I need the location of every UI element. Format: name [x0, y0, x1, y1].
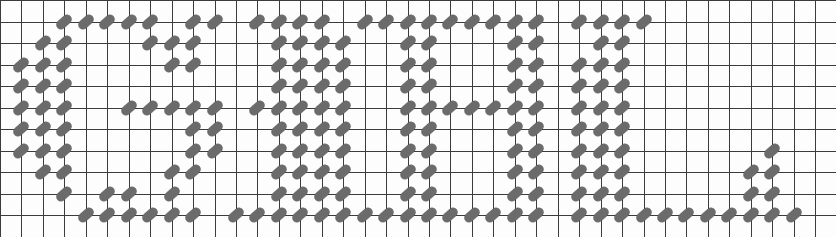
dash-mark: [312, 120, 331, 138]
dash-mark: [355, 12, 374, 30]
dash-mark: [591, 163, 610, 181]
dash-mark: [613, 163, 632, 181]
dash-mark: [184, 12, 203, 30]
dash-mark: [398, 120, 417, 138]
dash-mark: [613, 206, 632, 224]
dash-mark: [463, 206, 482, 224]
dash-mark: [420, 55, 439, 73]
dash-mark: [12, 77, 31, 95]
dash-mark: [741, 163, 760, 181]
dash-mark: [420, 206, 439, 224]
dash-mark: [334, 77, 353, 95]
dash-mark: [291, 141, 310, 159]
dash-mark: [484, 98, 503, 116]
dash-mark: [141, 12, 160, 30]
dash-mark: [270, 98, 289, 116]
dash-mark: [505, 98, 524, 116]
dash-mark: [398, 184, 417, 202]
dash-mark: [291, 120, 310, 138]
dash-mark: [763, 163, 782, 181]
dash-mark: [162, 98, 181, 116]
dash-marks-layer: [0, 0, 836, 237]
dash-mark: [12, 55, 31, 73]
dash-mark: [312, 34, 331, 52]
dash-mark: [12, 120, 31, 138]
dash-mark: [34, 55, 53, 73]
dash-mark: [763, 141, 782, 159]
dash-mark: [334, 163, 353, 181]
dash-mark: [119, 206, 138, 224]
dash-mark: [34, 163, 53, 181]
dash-mark: [398, 12, 417, 30]
dash-mark: [398, 163, 417, 181]
dash-mark: [291, 55, 310, 73]
dash-mark: [398, 55, 417, 73]
dash-mark: [570, 55, 589, 73]
dash-mark: [270, 77, 289, 95]
dash-mark: [570, 184, 589, 202]
dash-mark: [184, 34, 203, 52]
dash-mark: [505, 55, 524, 73]
dash-mark: [55, 141, 74, 159]
dash-mark: [505, 77, 524, 95]
dash-mark: [398, 141, 417, 159]
dash-mark: [613, 120, 632, 138]
dash-mark: [505, 120, 524, 138]
dash-mark: [613, 55, 632, 73]
dash-mark: [34, 98, 53, 116]
dash-mark: [570, 98, 589, 116]
dash-mark: [527, 55, 546, 73]
dash-mark: [55, 34, 74, 52]
dash-mark: [227, 206, 246, 224]
dash-mark: [55, 12, 74, 30]
dash-mark: [34, 120, 53, 138]
dash-mark: [505, 34, 524, 52]
dash-mark: [398, 77, 417, 95]
dash-mark: [312, 55, 331, 73]
dash-mark: [763, 206, 782, 224]
dash-mark: [291, 12, 310, 30]
dash-mark: [591, 12, 610, 30]
dash-mark: [784, 206, 803, 224]
dash-mark: [505, 163, 524, 181]
dash-mark: [420, 77, 439, 95]
dash-mark: [741, 184, 760, 202]
dash-mark: [527, 77, 546, 95]
dash-mark: [270, 34, 289, 52]
dash-mark: [570, 206, 589, 224]
dash-mark: [291, 77, 310, 95]
dash-mark: [420, 98, 439, 116]
dash-mark: [119, 98, 138, 116]
dash-mark: [270, 206, 289, 224]
dash-mark: [613, 12, 632, 30]
dash-mark: [505, 184, 524, 202]
dash-mark: [141, 206, 160, 224]
dash-mark: [613, 34, 632, 52]
dash-mark: [270, 184, 289, 202]
dash-mark: [505, 12, 524, 30]
dash-mark: [291, 34, 310, 52]
dash-mark: [205, 141, 224, 159]
dash-mark: [55, 120, 74, 138]
dash-mark: [12, 141, 31, 159]
dash-mark: [119, 12, 138, 30]
dash-mark: [291, 206, 310, 224]
dash-mark: [184, 120, 203, 138]
dash-mark: [205, 120, 224, 138]
dash-mark: [527, 120, 546, 138]
dash-mark: [312, 141, 331, 159]
dash-mark: [591, 141, 610, 159]
dash-mark: [441, 98, 460, 116]
dash-mark: [334, 55, 353, 73]
dash-mark: [527, 206, 546, 224]
dash-mark: [12, 98, 31, 116]
dash-mark: [634, 12, 653, 30]
dash-mark: [34, 141, 53, 159]
dash-mark: [312, 12, 331, 30]
dash-mark: [398, 98, 417, 116]
dash-mark: [613, 184, 632, 202]
dash-mark: [570, 12, 589, 30]
dash-mark: [484, 206, 503, 224]
dash-mark: [184, 55, 203, 73]
dash-mark: [570, 120, 589, 138]
